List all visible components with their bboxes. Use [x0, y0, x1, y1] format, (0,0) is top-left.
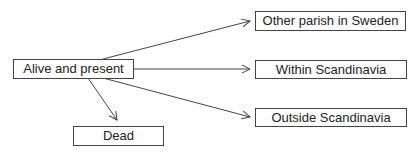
node-dead: Dead	[73, 126, 164, 146]
edge-alive-to-dead	[88, 78, 117, 120]
node-within-scandinavia: Within Scandinavia	[255, 60, 407, 79]
node-alive-and-present: Alive and present	[13, 59, 134, 79]
node-other-parish-in-sweden: Other parish in Sweden	[255, 11, 406, 31]
node-outside-scandinavia: Outside Scandinavia	[255, 108, 407, 127]
edge-alive-to-other-parish	[103, 21, 250, 59]
edge-alive-to-outside	[103, 78, 250, 117]
